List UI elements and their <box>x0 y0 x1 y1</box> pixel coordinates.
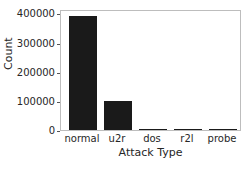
plot-area <box>60 10 241 131</box>
bar-u2r <box>104 101 132 130</box>
bar-dos <box>139 129 167 130</box>
y-tick-mark <box>57 14 60 15</box>
bar-r2l <box>174 129 202 130</box>
y-tick-mark <box>57 44 60 45</box>
bar-probe <box>209 129 237 130</box>
y-axis-label: Count <box>2 37 15 70</box>
y-tick-mark <box>57 131 60 132</box>
x-axis-label: Attack Type <box>60 146 241 159</box>
y-tick-label: 0 <box>0 126 55 136</box>
y-tick-label: 100000 <box>0 97 55 107</box>
x-tick-label: probe <box>202 133 242 145</box>
y-tick-label: 400000 <box>0 9 55 19</box>
x-tick-label: dos <box>132 133 172 145</box>
x-tick-label: r2l <box>167 133 207 145</box>
bar-normal <box>69 16 97 130</box>
x-tick-label: u2r <box>97 133 137 145</box>
x-tick-label: normal <box>62 133 102 145</box>
y-tick-mark <box>57 73 60 74</box>
y-tick-mark <box>57 102 60 103</box>
